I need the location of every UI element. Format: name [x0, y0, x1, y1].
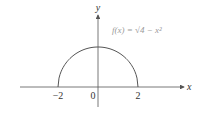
x-axis-label: x: [186, 81, 192, 92]
x-tick-label: 2: [136, 90, 141, 101]
x-tick-label: 0: [91, 90, 96, 101]
chart: x y −202 f(x) = √4 − x²: [0, 0, 199, 114]
function-annotation: f(x) = √4 − x²: [112, 25, 162, 35]
y-axis-label: y: [95, 2, 101, 13]
x-tick-label: −2: [53, 90, 64, 101]
